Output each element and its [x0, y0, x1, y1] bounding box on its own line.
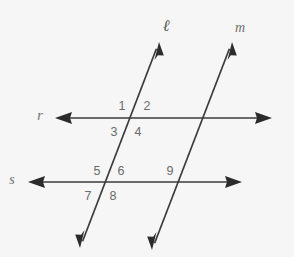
angle-label-8: 8	[110, 189, 117, 203]
angle-label-2: 2	[144, 99, 151, 113]
line-r-label: r	[37, 108, 43, 123]
diagram-background	[0, 0, 294, 257]
angle-label-3: 3	[111, 125, 118, 139]
angle-label-9: 9	[167, 164, 174, 178]
angle-label-7: 7	[85, 189, 92, 203]
line-m-label: m	[235, 20, 245, 35]
line-l-label: ℓ	[163, 17, 170, 34]
angle-label-5: 5	[94, 164, 101, 178]
line-s-label: s	[9, 172, 15, 187]
geometry-diagram-canvas: r s ℓ m 1 2 3 4 5 6	[0, 0, 294, 257]
geometry-figure: r s ℓ m 1 2 3 4 5 6	[0, 0, 294, 257]
angle-label-1: 1	[119, 99, 126, 113]
angle-label-4: 4	[135, 125, 142, 139]
angle-label-6: 6	[118, 164, 125, 178]
